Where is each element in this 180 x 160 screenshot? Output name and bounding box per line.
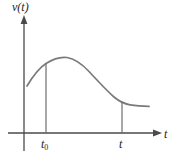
tick-t0-subscript: 0 (44, 143, 48, 152)
chart-canvas (0, 0, 180, 160)
y-axis-arrowhead (21, 15, 28, 24)
x-tick-label-t: t (119, 138, 122, 150)
y-axis-label: v(t) (12, 1, 29, 13)
x-axis-label: t (164, 128, 167, 140)
velocity-time-figure: v(t) t t0 t (0, 0, 180, 160)
x-axis-arrowhead (153, 130, 162, 137)
x-tick-label-t0: t0 (41, 138, 48, 150)
velocity-curve (27, 57, 149, 106)
